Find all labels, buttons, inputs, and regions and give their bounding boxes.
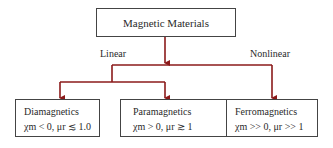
leaf-node-diamagnetics: Diamagnetics χm < 0, μr ≲ 1.0 [15, 99, 100, 137]
leaf-name: Paramagnetics [133, 104, 226, 119]
branch-label-nonlinear: Nonlinear [250, 48, 290, 59]
root-node-label: Magnetic Materials [123, 17, 209, 29]
branch-label-linear: Linear [100, 48, 126, 59]
root-node-magnetic-materials: Magnetic Materials [96, 8, 236, 37]
leaf-name: Diamagnetics [24, 104, 99, 119]
leaf-formula: χm > 0, μr ≳ 1 [133, 119, 226, 134]
leaf-formula: χm >> 0, μr >> 1 [235, 119, 317, 134]
leaf-name: Ferromagnetics [235, 104, 317, 119]
leaf-formula: χm < 0, μr ≲ 1.0 [24, 119, 99, 134]
leaf-node-paramagnetics: Paramagnetics χm > 0, μr ≳ 1 [120, 99, 227, 137]
leaf-node-ferromagnetics: Ferromagnetics χm >> 0, μr >> 1 [226, 99, 318, 137]
